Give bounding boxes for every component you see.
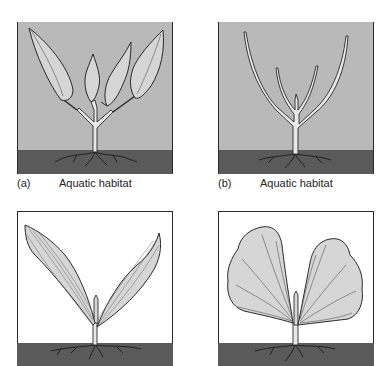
aquatic-plant-linear-leaves-illustration <box>218 14 375 174</box>
terrestrial-plant-lanceolate-leaves-illustration <box>17 211 174 366</box>
aquatic-plant-broad-leaves-illustration <box>17 14 174 174</box>
panel-d-terrestrial <box>218 211 375 366</box>
panel-b-label: (b) <box>218 177 231 189</box>
panel-a-label: (a) <box>17 177 30 189</box>
panel-b-caption: Aquatic habitat <box>260 177 333 189</box>
panel-a-aquatic <box>17 14 174 174</box>
terrestrial-plant-fan-leaves-illustration <box>218 211 375 366</box>
panel-b-aquatic <box>218 14 375 174</box>
panel-c-terrestrial <box>17 211 174 366</box>
panel-a-caption: Aquatic habitat <box>59 177 132 189</box>
